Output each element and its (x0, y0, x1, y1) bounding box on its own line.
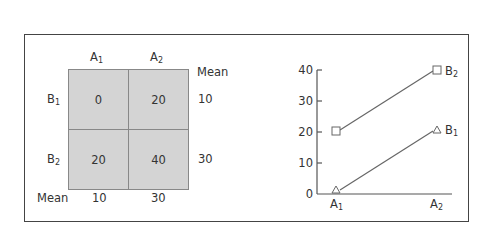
y-tick-labels: 40 30 20 10 0 (298, 63, 313, 201)
svg-text:A1: A1 (330, 197, 343, 212)
x-tick-labels: A1 A2 (330, 197, 443, 212)
triangle-marker-icon (433, 126, 441, 133)
square-marker-icon (433, 66, 441, 74)
svg-text:20: 20 (298, 125, 313, 139)
svg-text:10: 10 (298, 156, 313, 170)
triangle-marker-icon (332, 186, 340, 193)
svg-text:0: 0 (306, 187, 313, 201)
series-b2: B2 (332, 64, 458, 135)
svg-text:B1: B1 (445, 123, 458, 138)
svg-text:40: 40 (298, 63, 313, 77)
svg-text:B2: B2 (445, 64, 458, 79)
series-b1: B1 (332, 123, 458, 193)
svg-text:A2: A2 (430, 197, 443, 212)
square-marker-icon (332, 127, 340, 135)
interaction-line-chart: 40 30 20 10 0 A1 A2 B2 B1 (0, 0, 485, 234)
svg-text:30: 30 (298, 94, 313, 108)
